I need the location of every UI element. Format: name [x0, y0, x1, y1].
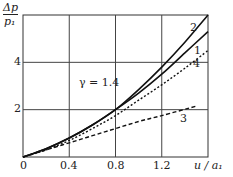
x-tick-0.4: 0.4 [60, 160, 78, 171]
y-axis-label-numerator: Δp [3, 2, 18, 13]
y-tick-4: 4 [14, 56, 21, 67]
y-axis-label-denominator: p₁ [4, 16, 15, 27]
x-tick-0: 0 [20, 160, 27, 171]
y-tick-2: 2 [14, 103, 21, 114]
x-tick-0.8: 0.8 [107, 160, 125, 171]
curve-label-3: 3 [180, 113, 187, 124]
gamma-annotation: γ = 1.4 [79, 77, 119, 88]
curve-label-4: 4 [193, 58, 200, 69]
x-tick-1.2: 1.2 [153, 160, 171, 171]
x-axis-label: u / a₁ [194, 160, 223, 171]
curve-label-1: 1 [194, 45, 201, 56]
curve-label-2: 2 [190, 22, 197, 33]
